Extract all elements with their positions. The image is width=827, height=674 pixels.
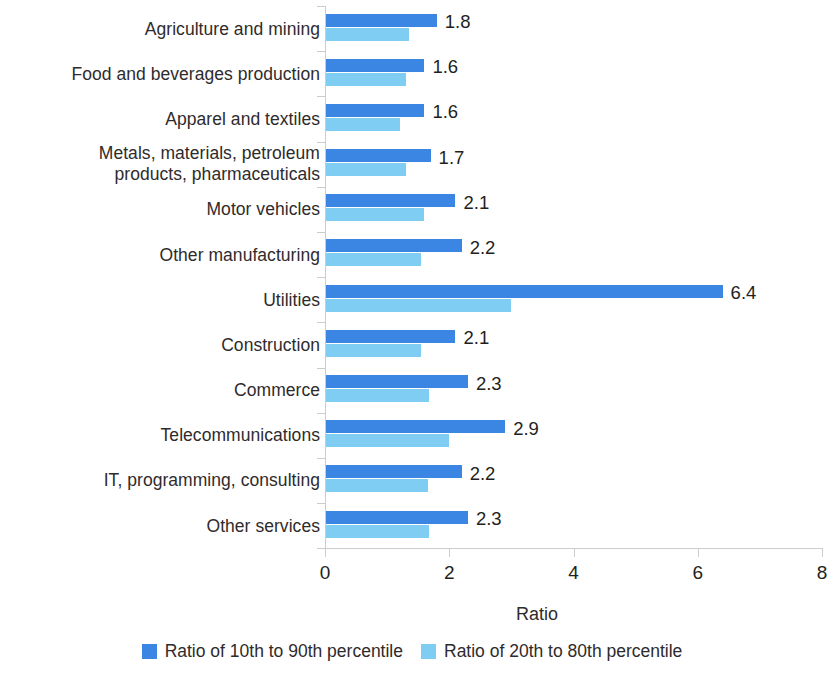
- category-label: Commerce: [6, 380, 320, 401]
- category-label: Utilities: [6, 289, 320, 310]
- bar-value-label: 2.1: [463, 329, 489, 347]
- bar-series-20th-80th: [325, 118, 400, 131]
- bar-row: Construction2.1: [0, 322, 824, 367]
- legend-item[interactable]: Ratio of 20th to 80th percentile: [421, 641, 682, 662]
- x-axis-title: Ratio: [0, 604, 824, 625]
- bar-row: IT, programming, consulting2.2: [0, 458, 824, 503]
- bar-group: 1.7: [325, 142, 824, 187]
- bar-row: Other manufacturing2.2: [0, 232, 824, 277]
- y-axis-tick: [317, 277, 325, 278]
- bar-value-label: 2.2: [470, 465, 496, 483]
- bar-row: Commerce2.3: [0, 368, 824, 413]
- bar-group: 2.1: [325, 322, 824, 367]
- bar-series-10th-90th: [325, 420, 505, 433]
- plot-area: Agriculture and mining1.8Food and bevera…: [0, 0, 824, 572]
- bar-group: 1.6: [325, 51, 824, 96]
- bar-series-10th-90th: [325, 149, 431, 162]
- x-axis-tick: [449, 548, 450, 557]
- x-axis-tick-label: 4: [568, 562, 579, 584]
- bar-group: 1.6: [325, 96, 824, 141]
- bar-series-10th-90th: [325, 511, 468, 524]
- bar-series-20th-80th: [325, 344, 421, 357]
- y-axis-tick: [317, 96, 325, 97]
- y-axis-tick: [317, 503, 325, 504]
- x-axis-tick: [822, 548, 823, 557]
- bar-series-10th-90th: [325, 375, 468, 388]
- category-label: Telecommunications: [6, 425, 320, 446]
- bar-value-label: 6.4: [731, 284, 757, 302]
- bar-group: 2.1: [325, 187, 824, 232]
- bar-series-10th-90th: [325, 285, 723, 298]
- bar-value-label: 1.6: [432, 103, 458, 121]
- category-label: Food and beverages production: [6, 63, 320, 84]
- bar-series-20th-80th: [325, 479, 428, 492]
- x-axis-tick-label: 8: [817, 562, 827, 584]
- bar-group: 2.2: [325, 232, 824, 277]
- category-label: IT, programming, consulting: [6, 470, 320, 491]
- category-label: Agriculture and mining: [6, 18, 320, 39]
- bar-value-label: 1.8: [445, 13, 471, 31]
- y-axis-tick: [317, 142, 325, 143]
- bar-group: 1.8: [325, 6, 824, 51]
- bar-row: Food and beverages production1.6: [0, 51, 824, 96]
- bar-value-label: 1.6: [432, 58, 458, 76]
- bar-row: Metals, materials, petroleum products, p…: [0, 142, 824, 187]
- x-axis-tick-label: 6: [692, 562, 703, 584]
- x-axis-tick: [698, 548, 699, 557]
- bar-rows: Agriculture and mining1.8Food and bevera…: [0, 6, 824, 548]
- legend-item[interactable]: Ratio of 10th to 90th percentile: [142, 641, 403, 662]
- x-axis-tick: [325, 548, 326, 557]
- bar-value-label: 2.1: [463, 194, 489, 212]
- bar-series-10th-90th: [325, 330, 455, 343]
- bar-value-label: 2.2: [470, 239, 496, 257]
- bar-series-20th-80th: [325, 208, 424, 221]
- bar-group: 2.2: [325, 458, 824, 503]
- y-axis-tick: [317, 413, 325, 414]
- y-axis-tick: [317, 458, 325, 459]
- bar-row: Motor vehicles2.1: [0, 187, 824, 232]
- bar-series-10th-90th: [325, 59, 424, 72]
- legend-swatch-icon: [421, 644, 436, 659]
- bar-series-10th-90th: [325, 465, 462, 478]
- bar-series-20th-80th: [325, 525, 429, 538]
- chart-legend: Ratio of 10th to 90th percentileRatio of…: [0, 641, 824, 662]
- bar-series-20th-80th: [325, 253, 421, 266]
- y-axis-tick: [317, 51, 325, 52]
- y-axis-tick: [317, 322, 325, 323]
- y-axis-tick: [317, 548, 325, 549]
- category-label: Other manufacturing: [6, 244, 320, 265]
- bar-group: 2.3: [325, 368, 824, 413]
- legend-swatch-icon: [142, 644, 157, 659]
- category-label: Apparel and textiles: [6, 108, 320, 129]
- bar-row: Telecommunications2.9: [0, 413, 824, 458]
- bar-row: Other services2.3: [0, 503, 824, 548]
- bar-series-20th-80th: [325, 299, 511, 312]
- bar-series-20th-80th: [325, 434, 449, 447]
- x-axis-tick-label: 0: [320, 562, 331, 584]
- category-label: Motor vehicles: [6, 199, 320, 220]
- bar-series-10th-90th: [325, 14, 437, 27]
- bar-group: 2.9: [325, 413, 824, 458]
- x-axis-tick-label: 2: [444, 562, 455, 584]
- bar-row: Apparel and textiles1.6: [0, 96, 824, 141]
- y-axis-tick: [317, 368, 325, 369]
- bar-series-10th-90th: [325, 239, 462, 252]
- bar-series-10th-90th: [325, 104, 424, 117]
- bar-series-20th-80th: [325, 73, 406, 86]
- category-label: Construction: [6, 334, 320, 355]
- bar-row: Utilities6.4: [0, 277, 824, 322]
- category-label: Metals, materials, petroleum products, p…: [6, 143, 320, 185]
- y-axis-tick: [317, 232, 325, 233]
- bar-row: Agriculture and mining1.8: [0, 6, 824, 51]
- bar-value-label: 2.9: [513, 420, 539, 438]
- x-axis-tick: [574, 548, 575, 557]
- bar-series-20th-80th: [325, 28, 409, 41]
- legend-label: Ratio of 20th to 80th percentile: [444, 641, 682, 662]
- bar-series-20th-80th: [325, 163, 406, 176]
- bar-group: 2.3: [325, 503, 824, 548]
- bar-group: 6.4: [325, 277, 824, 322]
- bar-value-label: 2.3: [476, 375, 502, 393]
- legend-label: Ratio of 10th to 90th percentile: [165, 641, 403, 662]
- bar-series-20th-80th: [325, 389, 429, 402]
